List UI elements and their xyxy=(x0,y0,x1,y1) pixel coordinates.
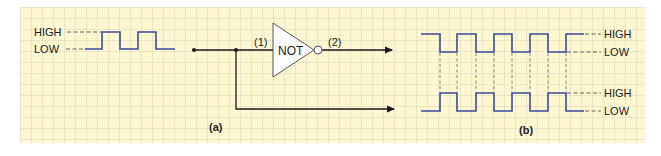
low-label: LOW xyxy=(604,46,630,58)
high-label: HIGH xyxy=(604,87,632,99)
low-label: LOW xyxy=(34,43,60,55)
input-pin-label: (1) xyxy=(254,36,267,48)
low-label: LOW xyxy=(604,105,630,117)
caption-a: (a) xyxy=(209,121,223,133)
high-label: HIGH xyxy=(604,28,632,40)
graph-paper xyxy=(20,7,645,143)
gate-label: NOT xyxy=(278,44,304,58)
caption-b: (b) xyxy=(519,124,533,136)
output-pin-label: (2) xyxy=(328,36,341,48)
inversion-bubble xyxy=(314,46,322,54)
high-label: HIGH xyxy=(34,26,62,38)
not-gate-diagram: HIGH LOW NOT (1) (2) (a) xyxy=(0,0,661,156)
